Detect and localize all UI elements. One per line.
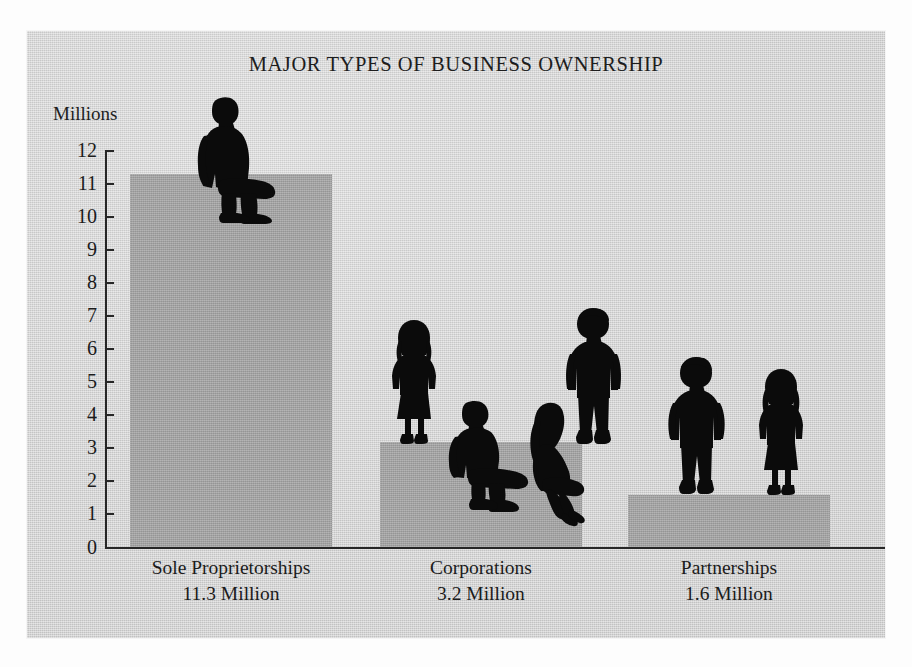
y-tick-label-3: 3	[53, 437, 97, 457]
category-name: Corporations	[371, 555, 591, 581]
bar-partnerships[interactable]	[628, 495, 830, 547]
y-tick-2	[105, 480, 114, 482]
standing-woman-silhouette	[385, 319, 443, 445]
bar-sole-proprietorships[interactable]	[130, 174, 332, 547]
y-tick-9	[105, 249, 114, 251]
standing-woman-silhouette	[752, 368, 810, 496]
x-axis-line	[105, 547, 885, 549]
y-tick-label-2: 2	[53, 470, 97, 490]
y-tick-label-12: 12	[53, 140, 97, 160]
y-tick-10	[105, 216, 114, 218]
category-value: 11.3 Million	[111, 581, 351, 607]
y-tick-label-8: 8	[53, 272, 97, 292]
standing-man-silhouette	[562, 306, 624, 446]
y-tick-5	[105, 381, 114, 383]
y-tick-11	[105, 183, 114, 185]
figure-page: MAJOR TYPES OF BUSINESS OWNERSHIP Millio…	[0, 0, 912, 667]
category-caption-partnerships: Partnerships 1.6 Million	[619, 555, 839, 606]
category-caption-sole-proprietorships: Sole Proprietorships 11.3 Million	[111, 555, 351, 606]
y-tick-7	[105, 315, 114, 317]
y-tick-12	[105, 150, 114, 152]
y-tick-6	[105, 348, 114, 350]
y-tick-label-1: 1	[53, 503, 97, 523]
category-value: 1.6 Million	[619, 581, 839, 607]
y-tick-8	[105, 282, 114, 284]
y-tick-label-11: 11	[53, 173, 97, 193]
seated-man-silhouette	[192, 96, 278, 224]
category-caption-corporations: Corporations 3.2 Million	[371, 555, 591, 606]
y-tick-label-10: 10	[53, 206, 97, 226]
chart-plate: MAJOR TYPES OF BUSINESS OWNERSHIP Millio…	[27, 31, 885, 638]
category-value: 3.2 Million	[371, 581, 591, 607]
y-tick-4	[105, 414, 114, 416]
y-tick-label-9: 9	[53, 239, 97, 259]
y-tick-label-5: 5	[53, 371, 97, 391]
y-tick-3	[105, 447, 114, 449]
plot-area: 12 11 10 9 8 7 6 5 4 3 2 1 0	[27, 31, 885, 638]
y-tick-label-0: 0	[53, 537, 97, 557]
y-tick-1	[105, 513, 114, 515]
standing-man-silhouette	[665, 355, 727, 496]
category-name: Sole Proprietorships	[111, 555, 351, 581]
y-tick-label-6: 6	[53, 338, 97, 358]
y-tick-label-7: 7	[53, 305, 97, 325]
category-name: Partnerships	[619, 555, 839, 581]
y-tick-label-4: 4	[53, 404, 97, 424]
